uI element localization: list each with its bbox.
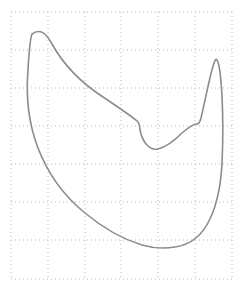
- grid-layer: [11, 12, 232, 279]
- data-curve-closed-curve: [27, 31, 222, 248]
- curve-layer: [27, 31, 222, 248]
- plot-svg: [0, 0, 245, 295]
- chart-canvas: [0, 0, 245, 295]
